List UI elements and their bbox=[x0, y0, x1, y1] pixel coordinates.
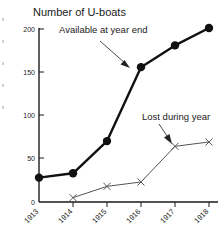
series-lost-during-year bbox=[70, 138, 213, 201]
y-tick-label-100: 100 bbox=[23, 112, 35, 119]
x-tick-label-1916: 1916 bbox=[124, 207, 142, 225]
y-tick-label-0: 0 bbox=[31, 199, 35, 206]
y-tick-label-50: 50 bbox=[27, 155, 35, 162]
x-axis-ticks bbox=[73, 202, 209, 207]
annotation-available-label: Available at year end bbox=[59, 24, 148, 35]
scan-artifact-marks bbox=[2, 18, 4, 109]
annotation-available-arrow bbox=[100, 41, 130, 68]
x-tick-label-1914: 1914 bbox=[56, 207, 74, 225]
u-boats-line-chart: Number of U-boats 200 150 100 50 0 1913 … bbox=[0, 0, 224, 237]
y-axis-ticks bbox=[39, 29, 44, 158]
x-tick-label-1913: 1913 bbox=[22, 207, 40, 225]
chart-figure: Number of U-boats 200 150 100 50 0 1913 … bbox=[0, 0, 224, 237]
y-tick-label-150: 150 bbox=[23, 69, 35, 76]
x-tick-label-1917: 1917 bbox=[158, 207, 176, 225]
y-tick-label-200: 200 bbox=[23, 26, 35, 33]
annotation-lost-label: Lost during year bbox=[142, 111, 210, 122]
annotation-lost-arrow bbox=[159, 124, 172, 144]
x-tick-label-1918: 1918 bbox=[192, 207, 210, 225]
x-tick-label-1915: 1915 bbox=[90, 207, 108, 225]
chart-title: Number of U-boats bbox=[33, 6, 126, 18]
series-available-at-year-end bbox=[35, 24, 213, 182]
